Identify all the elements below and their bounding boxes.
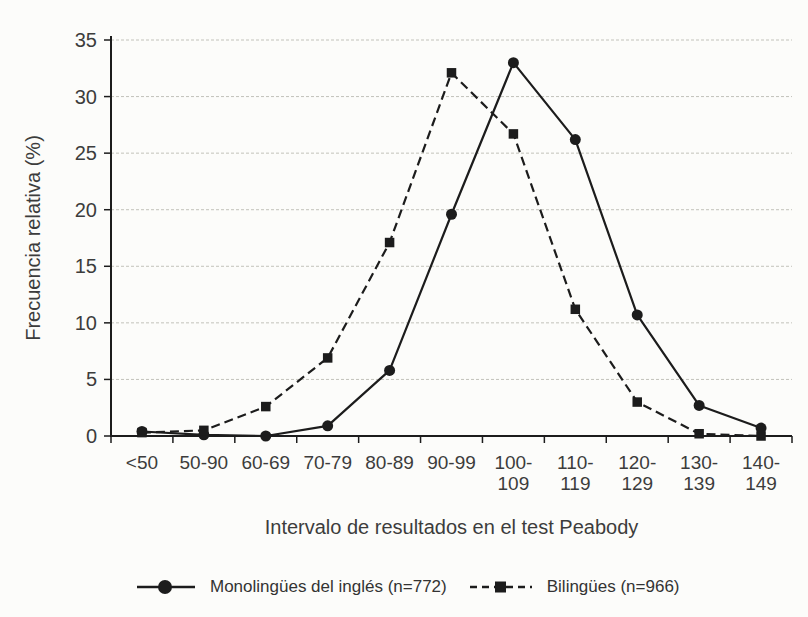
solid-line-circle-marker-icon (136, 577, 196, 597)
dashed-line-square-marker-icon (469, 577, 533, 597)
data-point-s1-0 (137, 428, 147, 438)
data-point-s0-6 (508, 57, 519, 68)
y-tick-label-30: 30 (75, 86, 97, 108)
data-point-s0-4 (384, 365, 395, 376)
x-axis-title: Intervalo de resultados en el test Peabo… (111, 516, 792, 539)
data-point-s1-1 (199, 426, 209, 436)
y-tick-label-35: 35 (75, 29, 97, 51)
data-point-s1-2 (261, 402, 271, 412)
series-line-1 (142, 73, 761, 436)
y-axis-title: Frecuencia relativa (%) (22, 135, 45, 341)
x-tick-label-10: 140-149 (742, 452, 780, 494)
x-tick-label-3: 70-79 (303, 452, 352, 473)
data-point-s0-9 (694, 400, 705, 411)
x-tick-label-8: 120-129 (618, 452, 656, 494)
series-line-0 (142, 63, 761, 436)
plot-area: 05101520253035<5050-9060-6970-7980-8990-… (0, 0, 808, 560)
data-point-s0-7 (570, 134, 581, 145)
legend-item-monolingues: Monolingües del inglés (n=772) (136, 577, 447, 597)
data-point-s0-5 (446, 209, 457, 220)
x-tick-label-2: 60-69 (241, 452, 290, 473)
chart-legend: Monolingües del inglés (n=772) Bilingües… (136, 577, 680, 597)
x-tick-label-9: 130-139 (680, 452, 718, 494)
y-tick-label-20: 20 (75, 199, 97, 221)
legend-label-bilingues: Bilingües (n=966) (547, 577, 680, 597)
data-point-s1-7 (571, 305, 581, 315)
data-point-s0-2 (260, 431, 271, 442)
x-tick-label-0: <50 (126, 452, 158, 473)
data-point-s0-3 (322, 420, 333, 431)
legend-item-bilingues: Bilingües (n=966) (469, 577, 680, 597)
legend-label-monolingues: Monolingües del inglés (n=772) (210, 577, 447, 597)
data-point-s1-8 (632, 397, 642, 407)
data-point-s1-4 (385, 238, 395, 248)
x-tick-label-4: 80-89 (365, 452, 414, 473)
y-tick-label-0: 0 (86, 425, 97, 447)
y-tick-label-5: 5 (86, 368, 97, 390)
data-point-s1-10 (756, 431, 766, 441)
y-tick-label-10: 10 (75, 312, 97, 334)
data-point-s0-8 (632, 309, 643, 320)
x-tick-label-5: 90-99 (427, 452, 476, 473)
y-tick-label-15: 15 (75, 255, 97, 277)
data-point-s1-6 (509, 129, 518, 139)
data-point-s1-9 (694, 429, 704, 439)
x-tick-label-6: 100-109 (494, 452, 532, 494)
x-tick-label-7: 110-119 (557, 452, 594, 494)
x-tick-label-1: 50-90 (180, 452, 229, 473)
data-point-s1-5 (447, 68, 457, 78)
y-tick-label-25: 25 (75, 142, 97, 164)
peabody-frequency-chart: 05101520253035<5050-9060-6970-7980-8990-… (0, 0, 808, 617)
data-point-s1-3 (323, 353, 333, 363)
